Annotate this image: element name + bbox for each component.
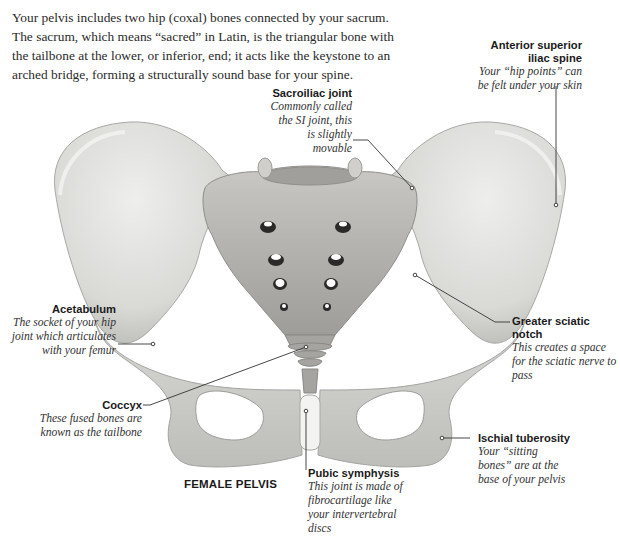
label-ischial-tuberosity: Ischial tuberosity Your “sitting bones” … <box>478 432 573 487</box>
label-description: This creates a space for the sciatic ner… <box>512 341 620 383</box>
coccyx <box>285 335 335 393</box>
label-title: Greater sciatic notch <box>512 315 620 341</box>
label-coccyx: Coccyx These fused bones are known as th… <box>30 399 142 440</box>
figure-title: FEMALE PELVIS <box>184 478 277 490</box>
label-title: Acetabulum <box>2 303 116 316</box>
label-sacroiliac-joint: Sacroiliac joint Commonly called the SI … <box>270 87 352 156</box>
label-title: Coccyx <box>30 399 142 412</box>
label-title: Pubic symphysis <box>308 467 412 480</box>
label-title: Sacroiliac joint <box>270 87 352 100</box>
label-description: Your “sitting bones” are at the base of … <box>478 445 573 487</box>
label-acetabulum: Acetabulum The socket of your hip joint … <box>2 303 116 358</box>
label-description: These fused bones are known as the tailb… <box>30 412 142 440</box>
label-description: This joint is made of fibrocartilage lik… <box>308 480 412 536</box>
label-description: Your “hip points” can be felt under your… <box>470 65 582 93</box>
label-anterior-superior-iliac-spine: Anterior superior iliac spine Your “hip … <box>470 39 582 93</box>
label-pubic-symphysis: Pubic symphysis This joint is made of fi… <box>308 467 412 536</box>
pubic-symphysis-cartilage <box>300 395 320 450</box>
label-description: Commonly called the SI joint, this is sl… <box>270 100 352 156</box>
label-description: The socket of your hip joint which artic… <box>2 316 116 358</box>
label-title: Anterior superior iliac spine <box>470 39 582 65</box>
label-greater-sciatic-notch: Greater sciatic notch This creates a spa… <box>512 315 620 383</box>
label-title: Ischial tuberosity <box>478 432 573 445</box>
